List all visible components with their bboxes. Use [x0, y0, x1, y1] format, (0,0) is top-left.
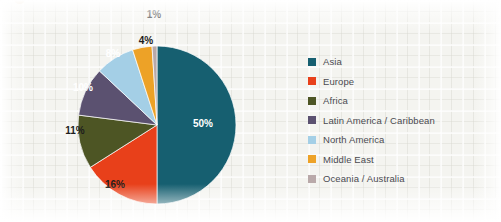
- legend-item-label: Africa: [323, 95, 348, 106]
- legend-color-swatch-icon: [308, 116, 316, 124]
- pie-slice-value-label: 8%: [106, 48, 121, 59]
- legend-item[interactable]: Europe: [308, 72, 494, 92]
- pie-chart-area: 50%16%11%10%8%4%1%: [0, 0, 290, 222]
- legend-color-swatch-icon: [308, 58, 316, 66]
- legend-item[interactable]: Asia: [308, 52, 494, 72]
- pie-slice-value-label: 10%: [73, 82, 93, 93]
- legend-color-swatch-icon: [308, 77, 316, 85]
- legend-item-label: Middle East: [323, 154, 374, 165]
- legend-item[interactable]: Middle East: [308, 150, 494, 170]
- pie-slice-value-label: 11%: [65, 125, 85, 136]
- chart-legend: AsiaEuropeAfricaLatin America / Caribbea…: [308, 52, 494, 189]
- legend-item[interactable]: North America: [308, 130, 494, 150]
- legend-color-swatch-icon: [308, 175, 316, 183]
- legend-item[interactable]: Latin America / Caribbean: [308, 111, 494, 131]
- pie-slice-value-label: 16%: [105, 179, 125, 190]
- pie-slice-value-label: 4%: [139, 35, 154, 46]
- legend-color-swatch-icon: [308, 136, 316, 144]
- legend-item[interactable]: Oceania / Australia: [308, 169, 494, 189]
- legend-color-swatch-icon: [308, 155, 316, 163]
- legend-item-label: Europe: [323, 76, 354, 87]
- pie-chart-screenshot: 50%16%11%10%8%4%1% AsiaEuropeAfricaLatin…: [0, 0, 501, 222]
- legend-item-label: North America: [323, 134, 385, 145]
- legend-item-label: Latin America / Caribbean: [323, 115, 435, 126]
- legend-item-label: Oceania / Australia: [323, 173, 405, 184]
- pie-slice-value-label: 1%: [147, 9, 162, 20]
- pie-chart-svg: 50%16%11%10%8%4%1%: [0, 0, 290, 222]
- pie-slice-value-label: 50%: [193, 118, 213, 129]
- legend-color-swatch-icon: [308, 97, 316, 105]
- legend-item-label: Asia: [323, 56, 342, 67]
- legend-item[interactable]: Africa: [308, 91, 494, 111]
